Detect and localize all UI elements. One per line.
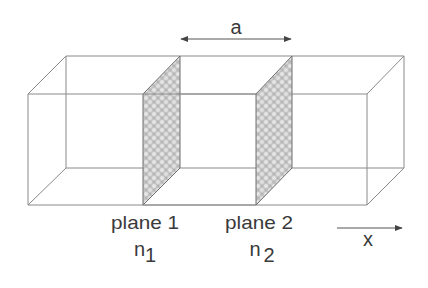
plane-2-label: plane 2: [225, 212, 293, 233]
plane-1-label: plane 1: [111, 212, 179, 233]
plane-2-index: n2: [249, 238, 274, 266]
box-depth-edges: [28, 56, 404, 205]
plane-1-face: [143, 56, 180, 205]
plane-1-index: n1: [134, 238, 156, 266]
crystal-planes-diagram: a plane 1 n1 plane 2 n2 x: [0, 0, 428, 288]
plane-2-face: [256, 56, 292, 205]
x-axis-label: x: [363, 228, 373, 250]
box-back-face: [66, 56, 404, 168]
box-front-face: [28, 94, 367, 205]
spacing-label: a: [230, 16, 242, 38]
